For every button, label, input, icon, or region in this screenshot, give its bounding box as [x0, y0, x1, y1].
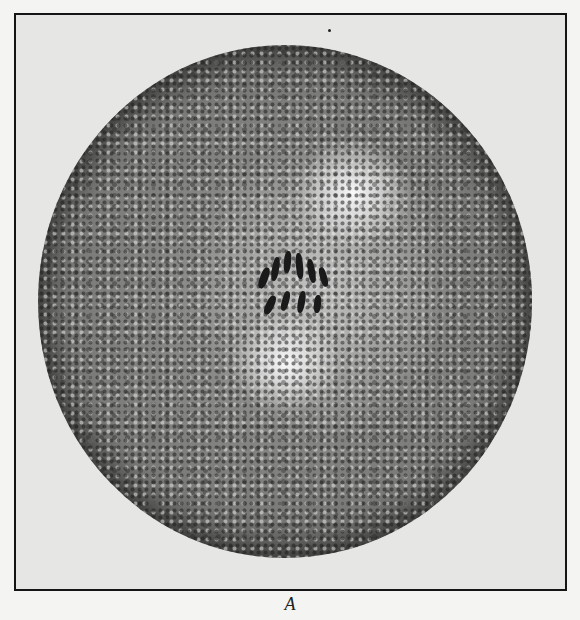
cell-image: [38, 45, 532, 558]
micrograph-frame: [14, 13, 567, 591]
speck: [328, 29, 331, 32]
figure-caption: A: [0, 594, 580, 615]
